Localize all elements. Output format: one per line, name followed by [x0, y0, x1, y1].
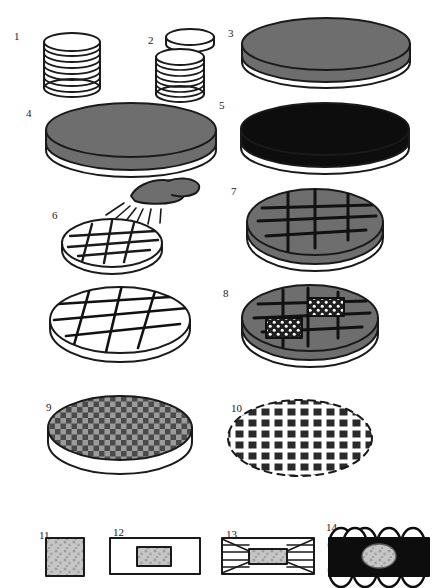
panel-label-3: 3	[228, 28, 234, 39]
panel-3-gray-disc	[242, 18, 410, 88]
panel-label-10: 10	[231, 403, 242, 414]
panel-label-12: 12	[113, 527, 124, 538]
panel-6-disc-cut-with-scalpel	[62, 178, 199, 274]
panel-label-2: 2	[148, 35, 154, 46]
panel-label-13: 13	[226, 529, 237, 540]
panel-7-gray-disc-gridded	[247, 189, 383, 271]
panel-14-block-sectioned	[329, 528, 429, 587]
panel-label-8: 8	[223, 288, 229, 299]
panel-label-1: 1	[14, 31, 20, 42]
panel-5-black-disc	[241, 103, 409, 174]
panel-9-disc-checkerboard	[48, 396, 192, 474]
figure-canvas	[0, 0, 439, 588]
panel-label-6: 6	[52, 210, 58, 221]
panel-label-11: 11	[39, 530, 50, 541]
panel-1-disc-stack	[44, 33, 100, 97]
panel-label-7: 7	[231, 186, 237, 197]
panel-8-gray-disc-explants	[242, 285, 378, 367]
panel-2-disc-stack-separated	[156, 29, 214, 102]
panel-label-9: 9	[46, 402, 52, 413]
panel-11-explant-square	[46, 538, 84, 576]
panel-12-embedded-block	[110, 538, 200, 574]
protocol-figure: 1 2 3 4 5 6 7 8 9 10 11 12 13 14	[0, 0, 439, 588]
panel-large-gridded-disc	[50, 285, 190, 362]
panel-label-14: 14	[326, 522, 337, 533]
panel-13-block-trimmed	[222, 538, 314, 574]
panel-label-4: 4	[26, 108, 32, 119]
panel-label-5: 5	[219, 100, 225, 111]
panel-4-gray-disc-large	[46, 103, 216, 177]
panel-10-separated-squares	[226, 398, 376, 480]
